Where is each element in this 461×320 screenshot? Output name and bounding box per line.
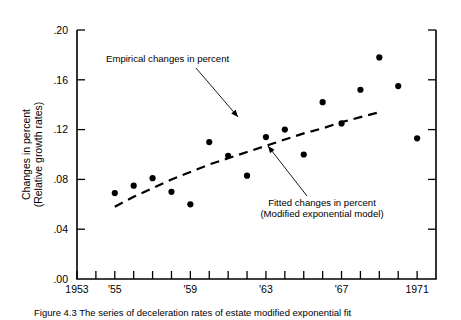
- y-axis-title: Changes in percent(Relative growth rates…: [20, 102, 44, 208]
- x-axis-tick-label: '59: [184, 283, 198, 295]
- data-point: [112, 190, 118, 196]
- x-axis-tick-label: 1953: [65, 283, 89, 295]
- data-point: [149, 175, 155, 181]
- y-axis-tick-label: .08: [53, 173, 68, 185]
- data-point: [131, 183, 137, 189]
- x-axis-tick-label: '63: [259, 283, 273, 295]
- annotation-leader-line: [196, 68, 238, 117]
- annotation-label: (Modified exponential model): [260, 208, 383, 219]
- y-axis-title-line: (Relative growth rates): [32, 102, 44, 208]
- data-point: [187, 201, 193, 207]
- data-point: [376, 54, 382, 60]
- y-axis-tick-label: .12: [53, 123, 68, 135]
- y-axis-tick-label: .20: [53, 24, 68, 36]
- figure-caption: Figure 4.3 The series of deceleration ra…: [34, 307, 352, 318]
- data-point: [168, 189, 174, 195]
- x-axis-tick-label: 1971: [405, 283, 429, 295]
- data-point: [357, 87, 363, 93]
- figure-container: .20.16.12.08.04.001953'55'59'63'671971Ch…: [0, 0, 461, 320]
- y-axis-tick-label: .04: [53, 223, 68, 235]
- x-axis-tick-label: '67: [335, 283, 349, 295]
- data-point: [225, 153, 231, 159]
- annotation-arrowhead: [268, 146, 275, 153]
- plot-frame: [77, 30, 436, 279]
- annotation-label: Fitted changes in percent: [268, 197, 376, 208]
- data-point: [206, 139, 212, 145]
- data-point: [301, 151, 307, 157]
- data-point: [395, 83, 401, 89]
- data-point: [338, 120, 344, 126]
- x-axis-tick-label: '55: [108, 283, 122, 295]
- data-point: [282, 127, 288, 133]
- annotation-label: Empirical changes in percent: [106, 53, 230, 64]
- y-axis-tick-label: .16: [53, 74, 68, 86]
- data-point: [263, 134, 269, 140]
- data-point: [320, 99, 326, 105]
- y-axis-title-line: Changes in percent: [20, 109, 32, 200]
- data-point: [414, 135, 420, 141]
- data-point: [244, 173, 250, 179]
- scatter-chart: .20.16.12.08.04.001953'55'59'63'671971Ch…: [0, 0, 461, 320]
- fitted-curve: [115, 112, 380, 207]
